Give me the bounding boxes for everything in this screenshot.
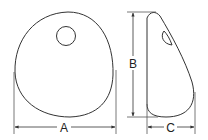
dimension-b-label: B (129, 57, 137, 71)
dimension-a-label: A (60, 121, 68, 135)
front-view-outline (15, 12, 113, 117)
side-view: B C (127, 12, 195, 135)
dimension-diagram: A B C (0, 0, 208, 140)
dimension-c-label: C (166, 121, 175, 135)
front-view: A (14, 12, 116, 135)
front-view-hole (57, 27, 76, 46)
side-view-outline (147, 12, 194, 117)
side-view-hole (162, 31, 172, 45)
